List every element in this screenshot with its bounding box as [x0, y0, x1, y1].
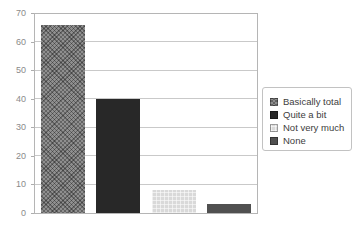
y-tick-label-30: 30	[16, 123, 26, 132]
legend-label: Not very much	[283, 123, 344, 133]
legend-label: Basically total	[283, 97, 341, 107]
legend: Basically total Quite a bit Not very muc…	[262, 87, 352, 151]
y-tick-label-20: 20	[16, 151, 26, 160]
y-tick-label-60: 60	[16, 37, 26, 46]
y-tick-label-70: 70	[16, 9, 26, 18]
y-axis: 010203040506070	[0, 13, 34, 214]
legend-swatch-not-very-much	[270, 124, 278, 132]
legend-label: Quite a bit	[283, 110, 326, 120]
bar-chart-figure: 010203040506070 Basically total Quite a …	[0, 0, 358, 236]
bar-not-very-much	[152, 190, 196, 213]
legend-item: Not very much	[270, 122, 347, 134]
bar-quite-a-bit	[96, 99, 140, 213]
y-tick-label-0: 0	[21, 209, 26, 218]
legend-item: Quite a bit	[270, 109, 347, 121]
y-tick-label-50: 50	[16, 66, 26, 75]
legend-swatch-none	[270, 137, 278, 145]
y-tick-label-40: 40	[16, 94, 26, 103]
bar-basically-total	[41, 25, 85, 213]
legend-item: Basically total	[270, 96, 347, 108]
legend-item: None	[270, 135, 347, 147]
legend-label: None	[283, 136, 306, 146]
plot-area	[34, 13, 258, 214]
legend-swatch-quite-a-bit	[270, 111, 278, 119]
y-tick-label-10: 10	[16, 180, 26, 189]
legend-swatch-basically-total	[270, 98, 278, 106]
bar-none	[207, 204, 251, 213]
